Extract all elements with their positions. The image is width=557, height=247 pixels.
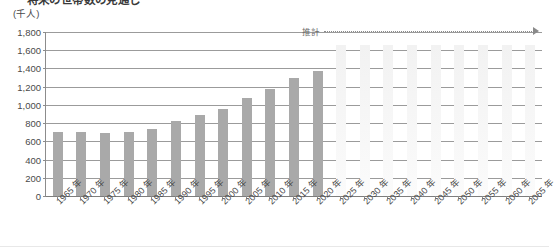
bar — [383, 45, 393, 196]
right-arrow-icon — [533, 27, 539, 35]
bar — [407, 45, 417, 196]
bar — [336, 45, 346, 196]
y-axis-tickmark — [43, 87, 46, 88]
x-axis-labels: 1965 年1970 年1975 年1980 年1985 年1990 年1995… — [0, 198, 549, 247]
y-axis-unit-label: (千人) — [13, 6, 39, 20]
y-axis-tickmark — [43, 32, 46, 33]
bar — [502, 45, 512, 196]
projection-label: 推計 — [302, 25, 320, 37]
y-axis-tick-label: 600 — [0, 136, 41, 147]
y-axis-tickmark — [43, 123, 46, 124]
y-axis-tick-label: 400 — [0, 154, 41, 165]
bar — [431, 45, 441, 196]
bar — [53, 132, 63, 196]
bar — [360, 45, 370, 196]
projection-annotation: 推計 — [302, 24, 541, 38]
bar — [525, 45, 535, 196]
gridline — [46, 68, 542, 69]
gridline — [46, 50, 542, 51]
y-axis-tickmark — [43, 141, 46, 142]
y-axis-tickmark — [43, 178, 46, 179]
bar — [454, 45, 464, 196]
y-axis-tick-label: 1,200 — [0, 81, 41, 92]
y-axis-tickmark — [43, 68, 46, 69]
plot-area — [45, 32, 541, 196]
y-axis-tick-label: 1,800 — [0, 27, 41, 38]
y-axis-tick-label: 200 — [0, 172, 41, 183]
y-axis-tick-label: 1,000 — [0, 99, 41, 110]
page-title-text: 将来の世帯数の見通し — [27, 0, 141, 6]
y-axis-tickmark — [43, 105, 46, 106]
y-axis-tick-label: 800 — [0, 118, 41, 129]
bar — [478, 45, 488, 196]
y-axis-tickmark — [43, 160, 46, 161]
chart-title-strip: 将来の世帯数の見通し — [0, 0, 549, 7]
y-axis-tick-label: 1,600 — [0, 45, 41, 56]
y-axis-tickmark — [43, 50, 46, 51]
y-axis-labels: 1,8001,6001,4001,2001,0008006004002000 — [0, 32, 41, 196]
y-axis-tick-label: 1,400 — [0, 63, 41, 74]
projection-dotted-line — [324, 31, 534, 32]
